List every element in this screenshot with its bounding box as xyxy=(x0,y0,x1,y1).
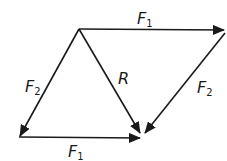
label-f1-top: F1 xyxy=(137,9,153,29)
vector-f2-right xyxy=(145,33,225,133)
vector-resultant xyxy=(79,29,140,133)
label-f1-bottom-sub: 1 xyxy=(77,151,83,161)
label-f2-right-sub: 2 xyxy=(206,87,212,98)
vector-f1-top xyxy=(79,29,224,30)
label-f1-top-sub: 1 xyxy=(146,18,152,29)
force-parallelogram-diagram: F1 F2 R F2 F1 xyxy=(0,0,227,161)
label-f2-right: F2 xyxy=(197,78,213,98)
vector-f1-bottom xyxy=(19,137,140,138)
label-f2-left-sub: 2 xyxy=(34,86,40,97)
label-f1-bottom: F1 xyxy=(68,142,84,161)
label-r: R xyxy=(118,69,129,88)
label-f2-left: F2 xyxy=(25,77,41,97)
label-r-main: R xyxy=(118,69,129,88)
